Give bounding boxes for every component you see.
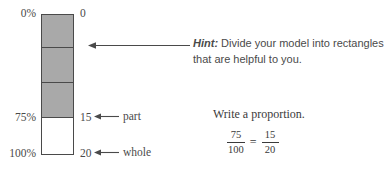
left-arrow-icon xyxy=(94,147,120,158)
bar-divider-1 xyxy=(42,47,73,48)
fraction-right-numerator: 15 xyxy=(264,129,277,141)
bar-segment-2 xyxy=(42,48,73,83)
worksheet-page: 0% 75% 100% 0 15 20 part whole Hi xyxy=(0,0,391,173)
bar-segment-4 xyxy=(42,118,73,154)
value-label-20: 20 xyxy=(80,148,92,160)
percent-label-0: 0% xyxy=(0,8,36,20)
left-arrow-icon xyxy=(94,111,120,122)
bar-divider-2 xyxy=(42,82,73,83)
percent-label-100: 100% xyxy=(0,148,36,160)
fraction-right-bar xyxy=(262,142,279,143)
bar-model-diagram xyxy=(41,14,74,155)
annotation-whole-label: whole xyxy=(123,147,151,159)
annotation-part-label: part xyxy=(123,111,141,123)
fraction-left: 75 100 xyxy=(227,129,245,156)
hint-lead-label: Hint: xyxy=(193,37,218,49)
bar-divider-3 xyxy=(42,117,73,118)
hint-left-arrow-icon xyxy=(88,40,191,51)
proportion-block: Write a proportion. 75 100 = 15 20 xyxy=(213,108,305,156)
equals-sign: = xyxy=(250,136,257,148)
fraction-left-bar xyxy=(227,142,245,143)
proportion-title: Write a proportion. xyxy=(213,108,305,120)
value-label-15: 15 xyxy=(80,112,92,124)
hint-text: Hint: Divide your model into rectangles … xyxy=(193,36,389,67)
value-label-0: 0 xyxy=(80,8,86,20)
hint-body-label: Divide your model into rectangles that a… xyxy=(193,37,384,65)
fraction-left-denominator: 100 xyxy=(227,144,245,156)
proportion-equation: 75 100 = 15 20 xyxy=(227,129,305,156)
annotation-part: part xyxy=(94,111,141,123)
fraction-right: 15 20 xyxy=(262,129,279,156)
percent-label-75: 75% xyxy=(0,112,36,124)
fraction-left-numerator: 75 xyxy=(230,129,243,141)
annotation-whole: whole xyxy=(94,147,151,159)
fraction-right-denominator: 20 xyxy=(264,144,277,156)
bar-segment-3 xyxy=(42,83,73,118)
bar-segment-1 xyxy=(42,15,73,48)
